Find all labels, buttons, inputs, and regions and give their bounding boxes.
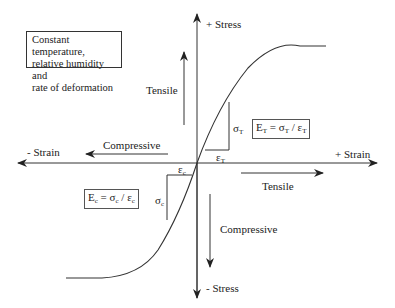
tension-triangle <box>205 102 229 150</box>
compression-modulus-equation: Ec = σc / εc <box>84 189 139 209</box>
sigma-t-label: σT <box>233 122 243 138</box>
compressive-vertical-label: Compressive <box>220 223 277 235</box>
y-positive-label: + Stress <box>206 18 241 30</box>
compression-triangle <box>167 175 192 220</box>
tensile-horizontal-label: Tensile <box>262 180 294 192</box>
x-negative-label: - Strain <box>27 146 60 158</box>
x-positive-label: + Strain <box>335 148 370 160</box>
y-negative-label: - Stress <box>206 282 239 294</box>
conditions-note: Constant temperature, relative humidity … <box>26 31 122 68</box>
epsilon-c-label: εc <box>178 163 186 179</box>
tensile-vertical-label: Tensile <box>146 84 178 96</box>
note-line-2: relative humidity and <box>32 58 121 82</box>
note-line-1: Constant temperature, <box>32 34 121 58</box>
note-line-3: rate of deformation <box>32 82 121 94</box>
sigma-c-label: σc <box>155 194 164 210</box>
compressive-horizontal-label: Compressive <box>103 139 160 151</box>
epsilon-t-label: εT <box>216 151 225 167</box>
tension-modulus-equation: ET = σT / εT <box>252 119 310 139</box>
